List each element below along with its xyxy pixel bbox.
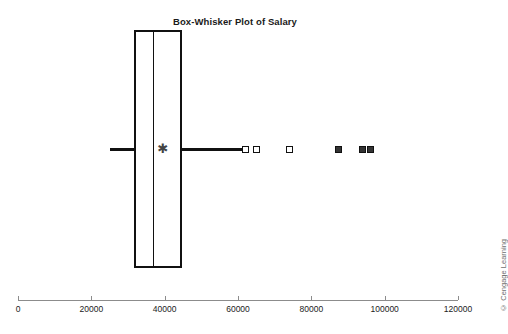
left-whisker-cap [110,148,113,151]
x-axis-tick-label: 120000 [444,304,472,314]
x-axis-tick-label: 0 [16,304,21,314]
left-whisker-line [110,148,134,151]
x-axis-tick-label: 60000 [226,304,250,314]
x-axis-tick-label: 40000 [153,304,177,314]
x-axis-line [18,300,458,301]
x-axis-tick [385,296,386,300]
x-axis-tick-label: 20000 [80,304,104,314]
x-axis-tick-label: 80000 [300,304,324,314]
x-axis-tick [165,296,166,300]
median-line [153,32,155,266]
copyright-credit: © Cengage Learning [499,239,508,312]
outlier-marker-filled [359,146,366,153]
outlier-marker-filled [367,146,374,153]
credit-container: © Cengage Learning [493,222,505,312]
x-axis-tick [311,296,312,300]
mean-asterisk-marker: ✱ [157,142,169,155]
outlier-marker-open [286,146,293,153]
right-whisker-line [182,148,240,151]
x-axis-tick [18,296,19,300]
x-axis-tick [238,296,239,300]
outlier-marker-filled [335,146,342,153]
x-axis-tick [91,296,92,300]
outlier-marker-open [242,146,249,153]
x-axis-tick-label: 100000 [370,304,398,314]
x-axis-tick [458,296,459,300]
outlier-marker-open [253,146,260,153]
